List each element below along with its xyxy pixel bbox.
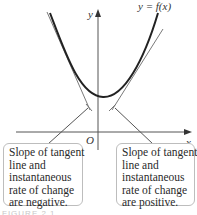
note-negative-slope: Slope of tangent line and instantaneous …: [3, 143, 83, 206]
note-right-line-1: Slope of tangent: [122, 146, 190, 159]
tangent-line-right: [112, 29, 163, 110]
note-left-line-5: are negative.: [9, 196, 78, 209]
note-right-line-3: instantaneous: [122, 171, 190, 184]
leader-line-right: [115, 108, 153, 144]
note-left-line-1: Slope of tangent: [9, 146, 78, 159]
note-right-line-2: line and: [122, 159, 190, 172]
x-axis-arrow-icon: [184, 129, 192, 135]
y-axis-label: y: [88, 9, 93, 20]
note-right-line-4: rate of change: [122, 184, 190, 197]
note-right-line-5: are positive.: [122, 196, 190, 209]
note-positive-slope: Slope of tangent line and instantaneous …: [116, 143, 195, 206]
curve-label: y = f(x): [138, 1, 171, 12]
leader-line-left: [48, 108, 88, 144]
y-axis-arrow-icon: [95, 9, 101, 17]
note-left-line-2: line and: [9, 159, 78, 172]
note-left-line-4: rate of change: [9, 184, 78, 197]
tangent-slope-diagram: y = f(x) y x O Slope of tangent line and…: [0, 0, 197, 215]
curve-f: [50, 13, 158, 97]
note-left-line-3: instantaneous: [9, 171, 78, 184]
figure-caption: FIGURE 2.1: [2, 209, 56, 215]
pointer-tick-left: [86, 104, 92, 111]
origin-label: O: [86, 135, 94, 146]
